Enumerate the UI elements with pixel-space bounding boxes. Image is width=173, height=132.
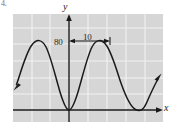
y-axis-label: y [63,2,67,12]
amplitude-label: 80 [54,38,63,47]
period-label: 10 [83,33,92,42]
sinusoid-graph [0,0,173,132]
figure-container: 4. [0,0,173,132]
x-axis-label: x [164,103,168,113]
